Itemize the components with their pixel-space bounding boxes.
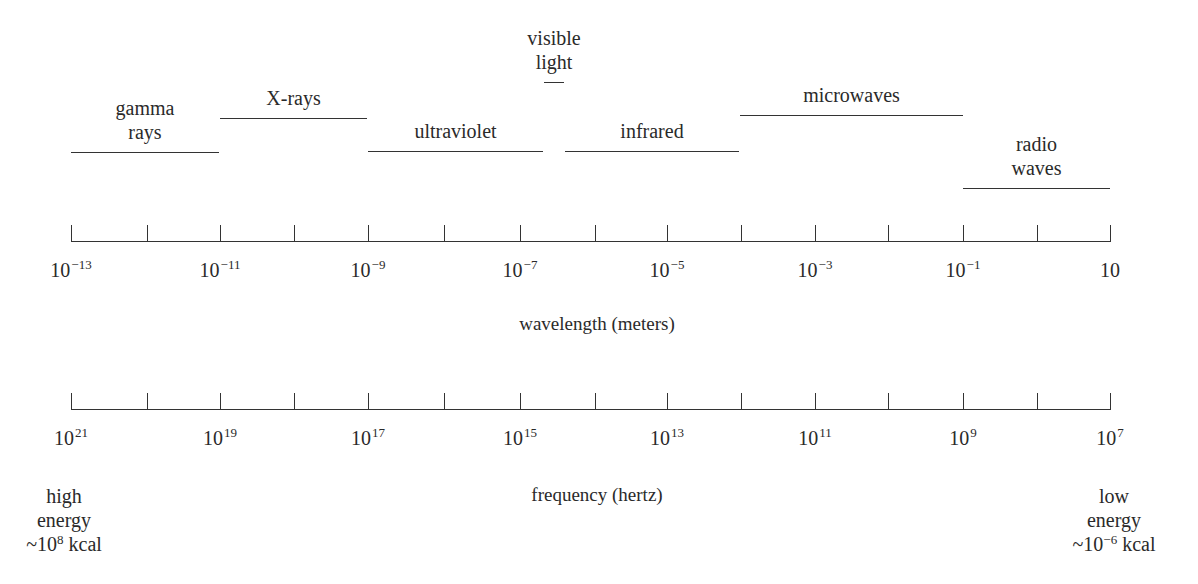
frequency-tick [667,393,668,409]
wavelength-tick-label: 10−3 [798,259,833,284]
band-label-gamma-rays: gammarays [116,96,175,144]
frequency-tick-label: 109 [949,427,977,452]
frequency-tick [220,393,221,409]
band-label-line: radio [1012,132,1062,156]
band-label-line: X-rays [266,86,320,110]
wavelength-tick [444,225,445,241]
wavelength-tick-label: 10−13 [50,259,91,284]
band-label-line: visible [527,26,580,50]
wavelength-tick [963,225,964,241]
band-label-line: ultraviolet [414,119,496,143]
frequency-tick-label: 1017 [351,427,385,452]
wavelength-tick-label: 10 [1100,259,1120,281]
band-label-line: rays [116,120,175,144]
wavelength-tick [147,225,148,241]
band-range-line-microwaves [740,115,963,116]
wavelength-tick [595,225,596,241]
wavelength-tick-label: 10−11 [200,259,241,284]
frequency-tick-label: 1015 [503,427,537,452]
frequency-tick [1110,393,1111,409]
low-energy-line2: energy [1073,508,1156,532]
frequency-tick [294,393,295,409]
frequency-tick [147,393,148,409]
frequency-tick [444,393,445,409]
frequency-axis-title: frequency (hertz) [531,484,662,506]
band-label-visible-light: visiblelight [527,26,580,74]
low-energy-annotation: low energy ~10−6 kcal [1073,484,1156,559]
wavelength-tick [815,225,816,241]
wavelength-tick-label: 10−7 [503,259,538,284]
band-label-line: microwaves [803,83,900,107]
wavelength-axis-title: wavelength (meters) [519,313,675,335]
frequency-tick-label: 1019 [203,427,237,452]
low-energy-line1: low [1073,484,1156,508]
band-range-line-visible-light [544,82,564,83]
frequency-tick-label: 1013 [650,427,684,452]
band-range-line-x-rays [220,118,367,119]
wavelength-axis-line [71,241,1111,242]
band-range-line-infrared [565,151,739,152]
frequency-tick-label: 107 [1096,427,1124,452]
em-spectrum-diagram: gammaraysX-raysultravioletvisiblelightin… [0,0,1198,584]
band-label-ultraviolet: ultraviolet [414,119,496,143]
high-energy-line1: high [26,484,102,508]
wavelength-tick [741,225,742,241]
wavelength-tick [368,225,369,241]
band-label-line: waves [1012,156,1062,180]
frequency-tick [520,393,521,409]
wavelength-tick [520,225,521,241]
high-energy-annotation: high energy ~108 kcal [26,484,102,559]
wavelength-tick [888,225,889,241]
frequency-tick [815,393,816,409]
band-label-line: gamma [116,96,175,120]
high-energy-line2: energy [26,508,102,532]
frequency-tick [595,393,596,409]
high-energy-value: ~108 kcal [26,532,102,559]
wavelength-tick [1110,225,1111,241]
wavelength-tick [71,225,72,241]
band-range-line-ultraviolet [368,151,543,152]
band-range-line-gamma-rays [71,152,219,153]
wavelength-tick-label: 10−5 [650,259,685,284]
wavelength-tick-label: 10−1 [946,259,981,284]
frequency-tick-label: 1011 [798,427,832,452]
frequency-tick [888,393,889,409]
low-energy-value: ~10−6 kcal [1073,532,1156,559]
band-label-x-rays: X-rays [266,86,320,110]
wavelength-tick [1037,225,1038,241]
frequency-tick [741,393,742,409]
frequency-tick [963,393,964,409]
wavelength-tick-label: 10−9 [351,259,386,284]
wavelength-tick [220,225,221,241]
frequency-axis-line [71,409,1111,410]
band-label-microwaves: microwaves [803,83,900,107]
band-label-radio-waves: radiowaves [1012,132,1062,180]
frequency-tick-label: 1021 [54,427,88,452]
wavelength-tick [294,225,295,241]
wavelength-tick [667,225,668,241]
band-label-line: infrared [620,119,683,143]
frequency-tick [1037,393,1038,409]
frequency-tick [368,393,369,409]
band-label-line: light [527,50,580,74]
band-label-infrared: infrared [620,119,683,143]
frequency-tick [71,393,72,409]
band-range-line-radio-waves [963,188,1110,189]
